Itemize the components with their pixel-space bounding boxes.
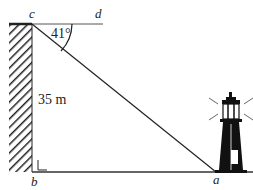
lighthouse bbox=[209, 92, 253, 173]
point-label-c: c bbox=[29, 6, 35, 22]
height-label: 35 m bbox=[38, 92, 66, 108]
point-label-a: a bbox=[213, 172, 220, 188]
right-angle-marker-b bbox=[38, 160, 47, 170]
cliff-wall bbox=[9, 24, 32, 172]
point-label-b: b bbox=[31, 174, 38, 190]
angle-label: 41° bbox=[51, 26, 71, 42]
point-label-d: d bbox=[95, 6, 102, 22]
